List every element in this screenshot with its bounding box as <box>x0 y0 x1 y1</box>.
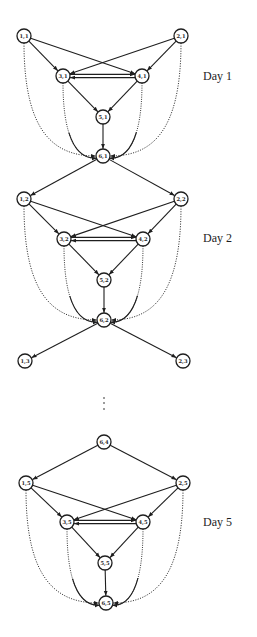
node-2-5: 2,5 <box>176 476 190 490</box>
node-label: 6,4 <box>99 439 108 445</box>
edge-6-4-to-2-5 <box>110 445 176 479</box>
edge-4-1-to-5-1 <box>108 81 137 112</box>
curve-3-1-to-6-1-dotted-part <box>63 83 97 158</box>
ellipsis-dot <box>103 402 105 404</box>
node-label: 4,2 <box>138 236 147 242</box>
edge-1-2-to-3-2 <box>29 204 59 234</box>
curve-4-2-to-6-2-solid-part <box>110 246 143 322</box>
node-label: 3,5 <box>62 519 71 525</box>
node-5-1: 5,1 <box>96 110 110 124</box>
curve-3-1-to-6-1-solid-part <box>63 83 97 158</box>
network-diagram: 1,12,13,14,15,16,11,22,23,24,25,26,21,32… <box>0 0 257 637</box>
curve-2-1-to-6-1 <box>110 43 181 156</box>
node-6-4: 6,4 <box>97 435 111 449</box>
node-label: 3,1 <box>58 73 67 79</box>
node-4-1: 4,1 <box>135 69 149 83</box>
edge-1-2-to-4-2 <box>31 201 136 236</box>
edge-3-2-to-5-2 <box>69 244 99 275</box>
ellipsis-dot <box>103 408 105 410</box>
curve-4-1-to-6-1-solid-part <box>109 83 142 158</box>
node-label: 2,1 <box>176 33 185 39</box>
curve-3-2-to-6-2-solid-part <box>64 246 98 322</box>
curve-1-5-to-6-5 <box>26 490 99 603</box>
node-label: 5,1 <box>98 114 107 120</box>
edge-6-2-to-1-3 <box>31 323 97 357</box>
node-label: 2,2 <box>176 196 185 202</box>
edge-6-4-to-1-5 <box>32 445 97 479</box>
edge-2-5-to-4-5 <box>148 488 178 517</box>
node-6-2: 6,2 <box>97 313 111 327</box>
node-4-5: 4,5 <box>136 515 150 529</box>
day-label-1: Day 1 <box>203 70 232 82</box>
node-label: 4,1 <box>137 73 146 79</box>
node-6-5: 6,5 <box>99 596 113 610</box>
ellipsis-dot <box>103 397 105 399</box>
node-label: 1,3 <box>20 358 29 364</box>
curve-4-5-to-6-5-dotted-part <box>112 529 143 605</box>
node-label: 2,5 <box>178 480 187 486</box>
node-3-1: 3,1 <box>56 69 70 83</box>
nodes: 1,12,13,14,15,16,11,22,23,24,25,26,21,32… <box>17 29 190 610</box>
edge-1-1-to-4-1 <box>31 38 135 73</box>
curve-2-5-to-6-5 <box>113 490 183 603</box>
diagram-canvas: 1,12,13,14,15,16,11,22,23,24,25,26,21,32… <box>0 0 257 637</box>
node-label: 5,2 <box>99 277 108 283</box>
edge-6-2-to-2-3 <box>110 323 176 357</box>
node-1-5: 1,5 <box>19 476 33 490</box>
node-3-5: 3,5 <box>60 515 74 529</box>
curve-3-5-to-6-5-solid-part <box>67 529 100 605</box>
curve-3-2-to-6-2-dotted-part <box>64 246 98 322</box>
node-label: 1,2 <box>19 196 28 202</box>
vertical-ellipsis <box>103 397 105 410</box>
curve-3-5-to-6-5-dotted-part <box>67 529 100 605</box>
node-1-1: 1,1 <box>17 29 31 43</box>
edge-1-5-to-3-5 <box>31 488 62 517</box>
edge-4-2-to-5-2 <box>109 244 138 275</box>
node-2-3: 2,3 <box>176 354 190 368</box>
edge-4-5-to-5-5 <box>110 527 138 558</box>
edge-2-5-to-3-5 <box>74 485 176 519</box>
node-label: 3,2 <box>59 236 68 242</box>
node-label: 4,5 <box>138 519 147 525</box>
curve-4-2-to-6-2-dotted-part <box>110 246 143 322</box>
node-4-2: 4,2 <box>136 232 150 246</box>
node-2-1: 2,1 <box>174 29 188 43</box>
node-label: 1,5 <box>21 480 30 486</box>
day-label-2: Day 2 <box>203 232 232 244</box>
edge-3-5-to-5-5 <box>72 527 100 558</box>
node-label: 5,5 <box>100 560 109 566</box>
edge-5-5-to-6-5 <box>105 570 106 596</box>
node-5-5: 5,5 <box>98 556 112 570</box>
edge-1-5-to-4-5 <box>33 485 136 519</box>
node-label: 6,1 <box>98 153 107 159</box>
curve-1-2-to-6-2 <box>24 206 97 320</box>
curve-4-1-to-6-1-dotted-part <box>109 83 142 158</box>
curve-4-5-to-6-5-solid-part <box>112 529 143 605</box>
node-label: 2,3 <box>178 358 187 364</box>
node-1-3: 1,3 <box>18 354 32 368</box>
day-label-5: Day 5 <box>203 516 232 528</box>
node-label: 6,5 <box>101 600 110 606</box>
edge-6-1-to-2-2 <box>109 159 174 195</box>
edge-6-1-to-1-2 <box>30 159 96 195</box>
edge-2-1-to-3-1 <box>70 38 174 73</box>
edge-2-2-to-3-2 <box>71 201 174 236</box>
edge-3-1-to-5-1 <box>68 81 98 112</box>
node-1-2: 1,2 <box>17 192 31 206</box>
node-label: 1,1 <box>19 33 28 39</box>
curve-1-1-to-6-1 <box>24 43 96 156</box>
node-label: 6,2 <box>99 317 108 323</box>
node-3-2: 3,2 <box>57 232 71 246</box>
curve-2-2-to-6-2 <box>111 206 181 320</box>
node-6-1: 6,1 <box>96 149 110 163</box>
node-2-2: 2,2 <box>174 192 188 206</box>
node-5-2: 5,2 <box>97 273 111 287</box>
